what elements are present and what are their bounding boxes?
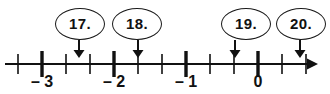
axis-right-arrowhead [307,59,318,70]
callout-label: 20. [290,16,312,31]
callout-pointers-group [74,40,306,58]
callout-pointer-head-0 [74,50,85,58]
callout-bubble-19: 19. [221,8,271,40]
callout-bubble-18: 18. [112,8,162,40]
callout-label: 17. [69,16,91,31]
callout-pointer-head-2 [230,50,241,58]
callout-label: 18. [126,16,148,31]
axis-tick-label--2: – 2 [103,74,125,90]
axis-tick-label--3: – 3 [31,74,53,90]
callout-pointer-head-3 [295,50,306,58]
callout-label: 19. [235,16,257,31]
number-line-figure: 17.18.19.20. – 3– 2– 10 [0,0,330,94]
callout-bubble-17: 17. [55,8,105,40]
callout-pointer-head-1 [133,50,144,58]
callout-bubble-20: 20. [276,8,326,40]
axis-tick-label--1: – 1 [175,74,197,90]
axis-tick-label-0: 0 [254,74,263,90]
